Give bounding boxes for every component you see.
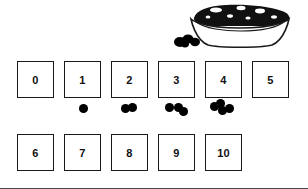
bean-counter[interactable] [128, 103, 137, 112]
number-box-label: 0 [18, 62, 53, 97]
worksheet-page: 012345678910 [0, 0, 308, 189]
counter-cluster-for-3[interactable] [163, 100, 207, 122]
bean-counter[interactable] [225, 104, 234, 113]
number-box-6[interactable]: 6 [17, 134, 54, 171]
number-box-9[interactable]: 9 [158, 134, 195, 171]
number-box-label: 7 [65, 135, 100, 170]
bean-counter[interactable] [79, 104, 88, 113]
number-box-label: 3 [159, 62, 194, 97]
number-box-1[interactable]: 1 [64, 61, 101, 98]
loose-beans-icon [173, 33, 207, 49]
number-box-label: 1 [65, 62, 100, 97]
bean-counter[interactable] [165, 103, 174, 112]
number-box-label: 2 [112, 62, 147, 97]
number-box-2[interactable]: 2 [111, 61, 148, 98]
number-box-3[interactable]: 3 [158, 61, 195, 98]
number-box-label: 4 [206, 62, 241, 97]
number-box-label: 5 [253, 62, 288, 97]
number-box-label: 6 [18, 135, 53, 170]
bean-counter[interactable] [179, 107, 188, 116]
number-box-7[interactable]: 7 [64, 134, 101, 171]
number-box-label: 10 [206, 135, 241, 170]
number-box-4[interactable]: 4 [205, 61, 242, 98]
counter-cluster-for-2[interactable] [118, 100, 162, 122]
number-box-label: 8 [112, 135, 147, 170]
number-box-0[interactable]: 0 [17, 61, 54, 98]
number-box-10[interactable]: 10 [205, 134, 242, 171]
number-box-5[interactable]: 5 [252, 61, 289, 98]
number-box-label: 9 [159, 135, 194, 170]
counter-cluster-for-1[interactable] [72, 100, 116, 122]
number-box-8[interactable]: 8 [111, 134, 148, 171]
counter-cluster-for-4[interactable] [208, 98, 252, 120]
